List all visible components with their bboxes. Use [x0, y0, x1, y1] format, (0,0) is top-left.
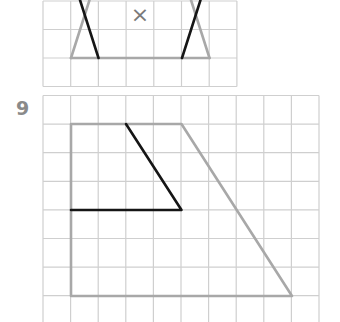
exercise-number-label: 9: [16, 99, 29, 118]
cross-icon: ×: [131, 2, 149, 27]
worksheet-canvas: ×: [0, 0, 340, 322]
